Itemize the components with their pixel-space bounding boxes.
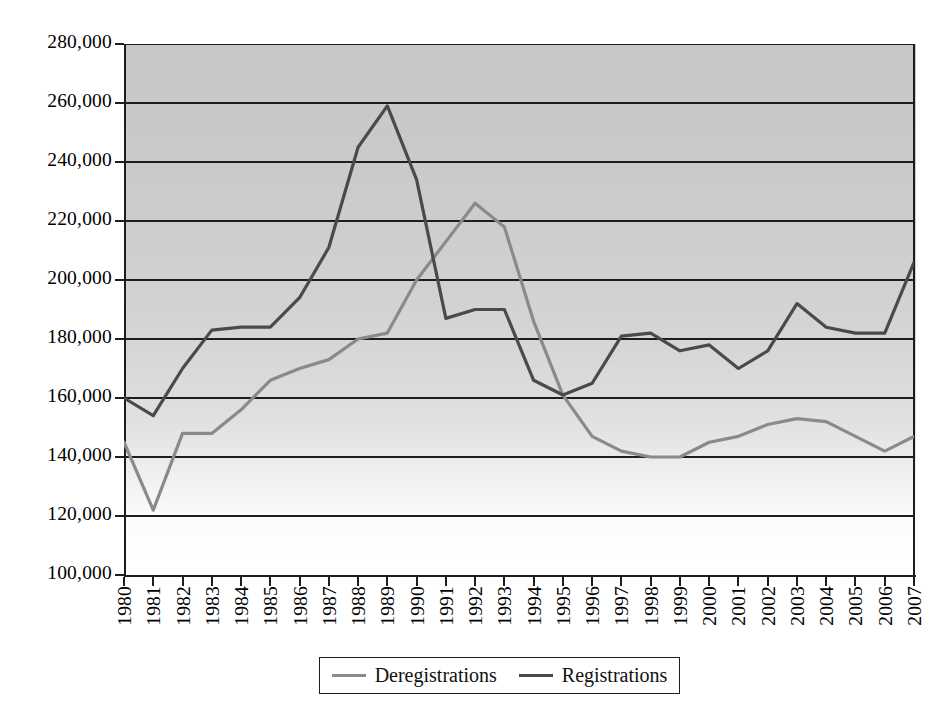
x-axis-tick-mark	[123, 577, 125, 586]
x-axis-tick-mark	[591, 577, 593, 586]
x-axis-tick-mark	[913, 577, 915, 586]
y-axis-tick-label: 200,000	[47, 267, 112, 289]
x-axis-tick-label: 1985	[260, 586, 282, 626]
x-axis-tick-label: 1981	[143, 586, 165, 626]
x-axis-tick-label: 1988	[348, 586, 370, 626]
x-axis-tick-mark	[650, 577, 652, 586]
line-chart: 280,000260,000240,000220,000200,000180,0…	[0, 0, 950, 719]
x-axis-tick-label: 2004	[816, 586, 838, 626]
y-axis-tick-label: 280,000	[47, 31, 112, 53]
x-axis-tick-label: 2007	[904, 586, 926, 626]
y-axis-tick-mark	[115, 515, 124, 517]
y-axis-tick-mark	[115, 220, 124, 222]
series-line-registrations	[124, 106, 914, 416]
x-axis-tick-label: 1994	[524, 586, 546, 626]
x-axis-tick-mark	[182, 577, 184, 586]
x-axis-tick-mark	[884, 577, 886, 586]
y-axis-tick-mark	[115, 43, 124, 45]
y-axis-tick-label: 220,000	[47, 208, 112, 230]
y-axis-tick-mark	[115, 456, 124, 458]
x-axis-tick-mark	[445, 577, 447, 586]
y-axis-tick-label: 160,000	[47, 385, 112, 407]
y-axis-labels: 280,000260,000240,000220,000200,000180,0…	[0, 0, 112, 719]
x-axis-tick-label: 1999	[670, 586, 692, 626]
x-axis-tick-mark	[562, 577, 564, 586]
x-axis-tick-label: 1989	[377, 586, 399, 626]
x-axis-tick-mark	[416, 577, 418, 586]
x-axis-tick-label: 1996	[582, 586, 604, 626]
x-axis-tick-mark	[503, 577, 505, 586]
x-axis-tick-mark	[854, 577, 856, 586]
x-axis-tick-mark	[767, 577, 769, 586]
x-axis-tick-label: 2001	[728, 586, 750, 626]
y-axis-tick-mark	[115, 397, 124, 399]
x-axis-tick-mark	[825, 577, 827, 586]
x-axis-tick-label: 1984	[231, 586, 253, 626]
x-axis-tick-mark	[679, 577, 681, 586]
x-axis-tick-label: 1997	[611, 586, 633, 626]
y-axis-tick-mark	[115, 338, 124, 340]
x-axis-tick-label: 1993	[494, 586, 516, 626]
y-axis-tick-label: 140,000	[47, 444, 112, 466]
y-axis-tick-label: 260,000	[47, 90, 112, 112]
x-axis-tick-label: 2006	[875, 586, 897, 626]
y-axis-tick-mark	[115, 161, 124, 163]
x-axis-tick-label: 2005	[845, 586, 867, 626]
x-axis-tick-mark	[386, 577, 388, 586]
x-axis-tick-label: 1992	[465, 586, 487, 626]
x-axis-tick-mark	[299, 577, 301, 586]
x-axis-tick-mark	[533, 577, 535, 586]
x-axis-tick-label: 2003	[787, 586, 809, 626]
legend-line-swatch	[332, 674, 366, 677]
x-axis-tick-label: 1983	[202, 586, 224, 626]
y-axis-tick-label: 240,000	[47, 149, 112, 171]
legend-entry: Registrations	[519, 664, 668, 687]
x-axis-tick-mark	[211, 577, 213, 586]
x-axis-labels: 1980198119821983198419851986198719881989…	[124, 586, 914, 666]
y-axis-tick-mark	[115, 574, 124, 576]
x-axis-tick-mark	[240, 577, 242, 586]
x-axis-tick-label: 1990	[407, 586, 429, 626]
x-axis-tick-label: 1980	[114, 586, 136, 626]
legend-label: Registrations	[562, 664, 668, 687]
x-axis-tick-mark	[357, 577, 359, 586]
x-axis-tick-label: 1998	[641, 586, 663, 626]
legend-label: Deregistrations	[375, 664, 497, 687]
x-axis-tick-mark	[737, 577, 739, 586]
x-axis-tick-mark	[474, 577, 476, 586]
x-axis-tick-label: 2002	[758, 586, 780, 626]
x-axis-tick-mark	[708, 577, 710, 586]
x-axis-tick-label: 2000	[699, 586, 721, 626]
x-axis-tick-label: 1995	[553, 586, 575, 626]
x-axis-tick-label: 1991	[436, 586, 458, 626]
plot-series-layer	[124, 44, 914, 575]
series-line-deregistrations	[124, 203, 914, 510]
y-axis-tick-label: 100,000	[47, 562, 112, 584]
legend-entry: Deregistrations	[332, 664, 497, 687]
chart-legend: DeregistrationsRegistrations	[319, 657, 680, 694]
x-axis-tick-mark	[796, 577, 798, 586]
x-axis-tick-label: 1986	[290, 586, 312, 626]
x-axis-tick-label: 1987	[319, 586, 341, 626]
y-axis-tick-mark	[115, 279, 124, 281]
x-axis-tick-mark	[328, 577, 330, 586]
y-axis-tick-label: 180,000	[47, 326, 112, 348]
y-axis-tick-mark	[115, 102, 124, 104]
legend-line-swatch	[519, 674, 553, 677]
y-axis-tick-label: 120,000	[47, 503, 112, 525]
x-axis-tick-label: 1982	[173, 586, 195, 626]
x-axis-tick-mark	[620, 577, 622, 586]
x-axis-tick-mark	[152, 577, 154, 586]
x-axis-tick-mark	[269, 577, 271, 586]
